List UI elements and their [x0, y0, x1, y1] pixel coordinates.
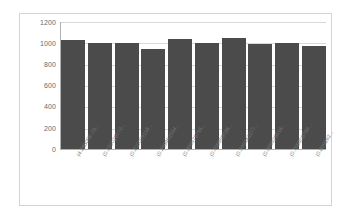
- bar-series: [61, 22, 326, 149]
- y-tick-label: 200: [44, 125, 56, 132]
- y-axis-tick-labels: 1200 1000 800 600 400 200 0: [22, 22, 56, 150]
- x-axis-tick-labels: (4.28509E-05...(0.100026072...(0.2000091…: [61, 154, 327, 210]
- y-tick-label: 0: [52, 146, 56, 153]
- plot-area: [60, 22, 326, 150]
- bar: [61, 40, 85, 149]
- chart-frame: 1200 1000 800 600 400 200 0 (4.28509E-05…: [19, 13, 332, 206]
- chart-container: 1200 1000 800 600 400 200 0 (4.28509E-05…: [0, 0, 351, 218]
- y-tick-label: 1000: [40, 40, 56, 47]
- x-axis-line: [60, 149, 326, 150]
- y-tick-label: 400: [44, 103, 56, 110]
- y-tick-label: 600: [44, 82, 56, 89]
- y-tick-label: 1200: [40, 19, 56, 26]
- y-tick-label: 800: [44, 61, 56, 68]
